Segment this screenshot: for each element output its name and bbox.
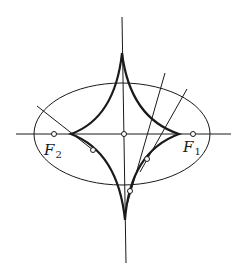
center-point — [122, 132, 127, 137]
label-F2: F2 — [43, 141, 62, 160]
evolute-point-bottom — [128, 189, 133, 194]
ellipse-evolute-diagram: F2 F1 — [0, 0, 244, 279]
label-F1: F1 — [182, 138, 201, 157]
focus-F1-point — [191, 132, 196, 137]
evolute-point-right — [145, 157, 150, 162]
diagram-canvas: F2 F1 — [0, 0, 244, 279]
evolute-point-left — [91, 148, 96, 153]
focus-F2-point — [52, 132, 57, 137]
